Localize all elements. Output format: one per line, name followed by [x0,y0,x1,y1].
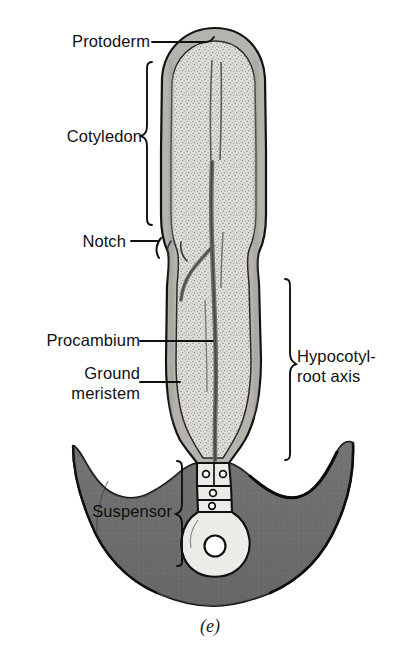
cotyledon-brace [141,62,152,225]
embryo-body [157,28,266,463]
label-hypocotyl-root-axis-line1: Hypocotyl- [297,347,376,365]
label-procambium: Procambium [16,331,140,350]
hypocotyl-root-axis-brace [285,279,296,460]
figure-caption: (e) [0,616,420,637]
label-ground-meristem-line1: Ground [84,364,140,382]
label-ground-meristem-line2: meristem [71,384,140,402]
label-hypocotyl-root-axis-line2: root axis [297,367,360,385]
label-cotyledon: Cotyledon [30,127,142,146]
label-protoderm: Protoderm [36,32,150,51]
label-hypocotyl-root-axis: Hypocotyl- root axis [297,347,417,386]
label-notch: Notch [40,232,126,251]
label-suspensor: Suspensor [78,502,172,521]
label-ground-meristem: Ground meristem [18,364,140,403]
embryo-figure: Protoderm Cotyledon Notch Procambium Gro… [0,0,420,665]
